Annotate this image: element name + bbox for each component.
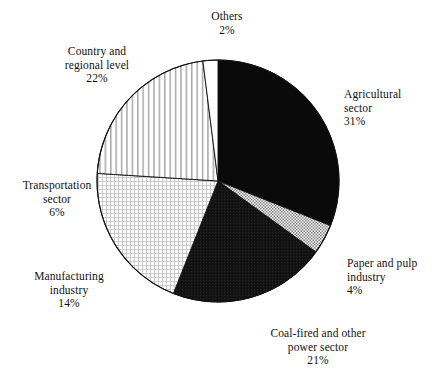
- pie-label-paper-and-pulp-industry: Paper and pulp industry 4%: [347, 257, 439, 298]
- pie-label-manufacturing-industry-value: 14%: [14, 297, 124, 311]
- pie-label-agricultural-sector-text-1: Agricultural: [344, 88, 439, 102]
- pie-label-agricultural-sector: Agricultural sector 31%: [344, 88, 439, 129]
- pie-label-others-value: 2%: [177, 24, 277, 38]
- pie-label-transportation-sector-text-2: sector: [2, 193, 112, 207]
- pie-label-transportation-sector-text-1: Transportation: [2, 179, 112, 193]
- pie-label-coal-fired-and-other-power-sector: Coal-fired and other power sector 21%: [243, 327, 393, 368]
- pie-label-manufacturing-industry-text-2: industry: [14, 284, 124, 298]
- pie-label-paper-and-pulp-industry-text-1: Paper and pulp: [347, 257, 439, 271]
- pie-label-paper-and-pulp-industry-value: 4%: [347, 284, 439, 298]
- pie-label-country-and-regional-level: Country and regional level 22%: [38, 45, 156, 86]
- pie-chart: Others 2% Agricultural sector 31% Paper …: [0, 0, 439, 380]
- pie-label-coal-fired-and-other-power-sector-text-1: Coal-fired and other: [243, 327, 393, 341]
- pie-label-country-and-regional-level-text-2: regional level: [38, 59, 156, 73]
- pie-label-others-text: Others: [177, 10, 277, 24]
- pie-label-manufacturing-industry: Manufacturing industry 14%: [14, 270, 124, 311]
- pie-label-agricultural-sector-value: 31%: [344, 115, 439, 129]
- pie-label-paper-and-pulp-industry-text-2: industry: [347, 271, 439, 285]
- pie-label-transportation-sector: Transportation sector 6%: [2, 179, 112, 220]
- pie-label-country-and-regional-level-text-1: Country and: [38, 45, 156, 59]
- pie-label-transportation-sector-value: 6%: [2, 206, 112, 220]
- pie-label-coal-fired-and-other-power-sector-text-2: power sector: [243, 341, 393, 355]
- pie-label-country-and-regional-level-value: 22%: [38, 72, 156, 86]
- pie-label-agricultural-sector-text-2: sector: [344, 102, 439, 116]
- pie-label-manufacturing-industry-text-1: Manufacturing: [14, 270, 124, 284]
- pie-label-others: Others 2%: [177, 10, 277, 37]
- pie-label-coal-fired-and-other-power-sector-value: 21%: [243, 354, 393, 368]
